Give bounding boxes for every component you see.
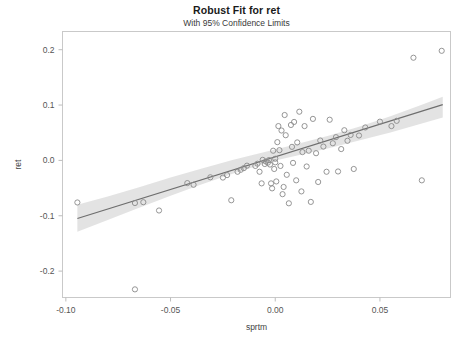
scatter-point <box>274 179 279 184</box>
scatter-point <box>282 112 287 117</box>
x-tick-label: 0.00 <box>267 305 284 315</box>
robust-fit-line <box>77 105 442 219</box>
x-tick-label: -0.10 <box>56 305 76 315</box>
scatter-point <box>351 166 356 171</box>
scatter-point <box>280 192 285 197</box>
scatter-point <box>419 178 424 183</box>
scatter-point <box>275 140 280 145</box>
scatter-point <box>327 117 332 122</box>
plot-area: -0.10-0.050.000.05 0.20.10.0-0.1-0.2 spr… <box>0 0 473 346</box>
scatter-point <box>268 181 273 186</box>
fit-line-group <box>77 105 442 219</box>
scatter-point <box>294 178 299 183</box>
x-tick-label: -0.05 <box>161 305 181 315</box>
y-axis-ticks: 0.20.10.0-0.1-0.2 <box>40 45 63 276</box>
y-tick-label: 0.0 <box>43 155 55 165</box>
scatter-markers <box>75 48 445 292</box>
scatter-point <box>297 109 302 114</box>
x-axis-title: sprtm <box>246 322 267 332</box>
scatter-point <box>286 201 291 206</box>
scatter-point <box>229 198 234 203</box>
scatter-point <box>439 48 444 53</box>
x-axis-ticks: -0.10-0.050.000.05 <box>56 298 388 315</box>
scatter-point <box>257 169 262 174</box>
scatter-point <box>299 189 304 194</box>
scatter-point <box>259 181 264 186</box>
scatter-point <box>272 166 277 171</box>
scatter-point <box>316 179 321 184</box>
y-tick-label: 0.2 <box>43 45 55 55</box>
scatter-point <box>269 186 274 191</box>
scatter-point <box>313 151 318 156</box>
scatter-point <box>281 184 286 189</box>
y-tick-label: -0.2 <box>40 266 55 276</box>
robust-fit-chart: Robust Fit for ret With 95% Confidence L… <box>0 0 473 346</box>
scatter-point <box>308 199 313 204</box>
scatter-point <box>283 133 288 138</box>
scatter-point <box>75 200 80 205</box>
scatter-point <box>310 116 315 121</box>
scatter-point <box>132 287 137 292</box>
scatter-point <box>288 122 293 127</box>
scatter-point <box>278 163 283 168</box>
scatter-point <box>284 172 289 177</box>
scatter-point <box>290 160 295 165</box>
y-tick-label: 0.1 <box>43 100 55 110</box>
scatter-point <box>335 169 340 174</box>
scatter-point <box>411 55 416 60</box>
y-axis-title: ret <box>13 159 23 170</box>
scatter-point <box>291 119 296 124</box>
scatter-point <box>279 128 284 133</box>
scatter-point <box>324 169 329 174</box>
scatter-point <box>156 208 161 213</box>
scatter-point <box>304 164 309 169</box>
y-tick-label: -0.1 <box>40 211 55 221</box>
scatter-point <box>302 123 307 128</box>
x-tick-label: 0.05 <box>372 305 389 315</box>
scatter-point <box>339 146 344 151</box>
